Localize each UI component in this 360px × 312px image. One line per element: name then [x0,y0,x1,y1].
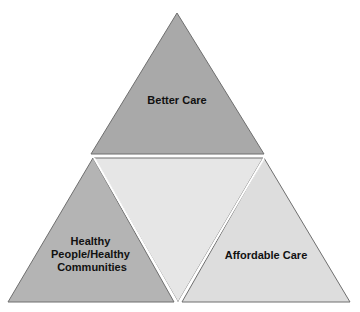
label-healthy-line1: Healthy [71,235,112,247]
top-triangle-better-care [91,13,264,154]
label-healthy-line3: Communities [57,261,127,273]
label-healthy-line2: People/Healthy [51,248,131,260]
label-better-care: Better Care [147,94,206,106]
triple-aim-diagram: Better Care Healthy People/Healthy Commu… [0,0,360,312]
label-affordable-care: Affordable Care [225,249,308,261]
